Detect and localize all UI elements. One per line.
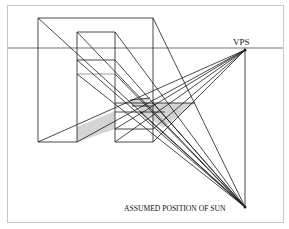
- sun-point: [244, 206, 247, 209]
- perspective-shadow-diagram: VPS ASSUMED POSITION OF SUN: [0, 0, 289, 229]
- vps-label: VPS: [233, 37, 250, 47]
- sun-label: ASSUMED POSITION OF SUN: [124, 204, 226, 213]
- construction-lines: [38, 18, 245, 207]
- shadow-left: [77, 111, 115, 142]
- shadow-shapes: [77, 98, 195, 142]
- vps-point: [244, 49, 247, 52]
